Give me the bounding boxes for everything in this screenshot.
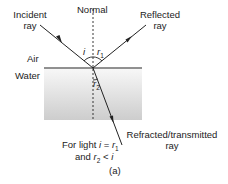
note-i2: i [111,151,113,162]
incident-label-line2: ray [12,20,48,31]
air-label: Air [27,53,39,64]
reflected-label: Reflected ray [138,9,182,31]
angle-i-label: i [83,46,85,57]
reflected-label-line2: ray [138,20,182,31]
refracted-label: Refracted/transmitted ray [124,129,220,151]
angle-r1-subscript: 1 [100,52,104,59]
refracted-label-line1: Refracted/transmitted [124,129,220,140]
note-text2: and [75,151,94,162]
note-r1-sub: 1 [115,145,119,152]
angle-r2-subscript: 2 [96,84,100,91]
figure-caption: (a) [109,165,121,176]
reflected-label-line1: Reflected [138,9,182,20]
refracted-label-line2: ray [124,140,220,151]
note-lt: < [100,151,111,162]
reflected-arrow-icon [126,36,133,43]
note-text: For light [62,139,99,150]
water-label: Water [15,70,40,81]
normal-label: Normal [77,4,108,15]
incident-label-line1: Incident [12,9,48,20]
incident-label: Incident ray [12,9,48,31]
note-eq: = [101,139,112,150]
angle-r2-label: r2 [93,78,100,93]
note-line2: and r2 < i [75,151,113,166]
angle-r1-label: r1 [97,46,104,61]
